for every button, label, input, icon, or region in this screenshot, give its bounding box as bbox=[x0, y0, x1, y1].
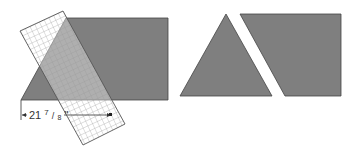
left-figure: 21 7 / 8 " bbox=[0, 0, 180, 156]
right-figure bbox=[180, 14, 341, 96]
quilting-cut-diagram: 21 7 / 8 " bbox=[0, 0, 356, 156]
